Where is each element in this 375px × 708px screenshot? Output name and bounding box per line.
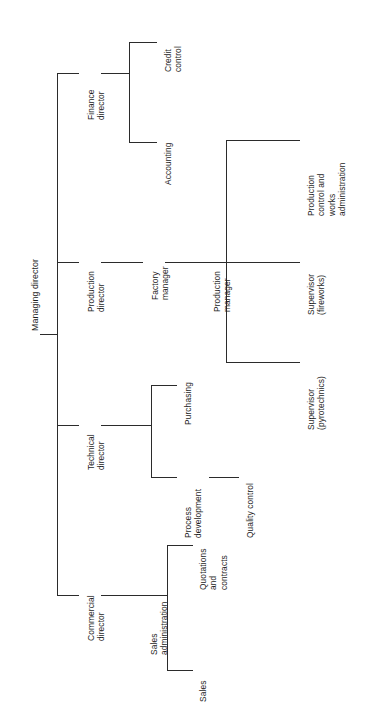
edge-factory-manager-to-production-manager	[165, 262, 207, 263]
edge-main-spine	[57, 73, 58, 596]
node-quality-control: Quality control	[245, 483, 255, 538]
edge-technical-to-process-development	[151, 477, 177, 478]
edge-pm-to-production-control	[226, 140, 300, 141]
edge-spine-to-commercial	[57, 595, 79, 596]
node-supervisor-pyrotechnics: Supervisor (pyrotechnics)	[306, 376, 327, 430]
node-purchasing: Purchasing	[183, 382, 193, 425]
edge-pm-to-supervisor-pyrotechnics	[226, 362, 300, 363]
edge-finance-stub	[101, 73, 129, 74]
edge-process-development-to-quality-control	[209, 477, 239, 478]
edge-root-stub	[40, 334, 58, 335]
edge-sales-admin-to-quotations	[167, 545, 193, 546]
edge-technical-to-purchasing	[151, 385, 177, 386]
edge-finance-to-credit-control	[129, 42, 157, 43]
node-sales: Sales	[198, 681, 208, 702]
edge-spine-to-production	[57, 262, 79, 263]
edge-production-director-to-factory-manager	[101, 262, 143, 263]
edge-technical-bus	[151, 385, 152, 477]
edge-sales-admin-to-sales	[167, 670, 193, 671]
edge-commercial-to-sales-administration	[101, 595, 151, 596]
node-quotations-and-contracts: Quotations and contracts	[198, 548, 229, 590]
edge-technical-stub	[101, 425, 151, 426]
organisation-chart: Managing director Finance director Credi…	[0, 0, 375, 708]
edge-spine-to-technical	[57, 425, 79, 426]
edge-production-manager-bus	[226, 140, 227, 362]
node-managing-director: Managing director	[30, 259, 41, 331]
edge-spine-to-finance	[57, 73, 79, 74]
node-process-development: Process development	[183, 489, 204, 538]
edge-production-manager-stub	[207, 262, 226, 263]
node-supervisor-fireworks: Supervisor (fireworks)	[306, 274, 327, 315]
edge-pm-to-supervisor-fireworks	[226, 262, 300, 263]
edge-finance-bus	[129, 42, 130, 142]
edge-sales-administration-stub	[151, 595, 167, 596]
edge-finance-to-accounting	[129, 142, 157, 143]
node-production-control-works-admin: Production control and works administrat…	[306, 162, 347, 216]
